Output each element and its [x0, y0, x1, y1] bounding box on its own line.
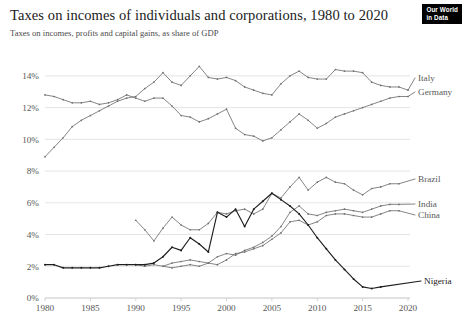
- series-data-point: [162, 97, 164, 99]
- x-axis-tick-label: 2010: [308, 303, 327, 313]
- series-data-point: [298, 205, 300, 207]
- y-axis-tick-label: 0%: [27, 293, 40, 303]
- x-axis-tick-label: 2020: [399, 303, 418, 313]
- series-data-point: [253, 213, 255, 215]
- y-axis-tick-label: 4%: [27, 230, 40, 240]
- series-data-point: [62, 267, 64, 269]
- series-data-point: [316, 237, 318, 239]
- series-data-point: [316, 215, 318, 217]
- series-data-point: [262, 208, 264, 210]
- series-data-point: [271, 235, 273, 237]
- series-labels: ItalyGermanyBrazilIndiaChinaNigeria: [381, 73, 453, 287]
- series-data-point: [90, 100, 92, 102]
- series-label-india[interactable]: India: [418, 199, 437, 209]
- series-data-point: [53, 146, 55, 148]
- series-data-point: [344, 183, 346, 185]
- series-data-point: [316, 78, 318, 80]
- series-data-point: [362, 286, 364, 288]
- series-data-point: [344, 213, 346, 215]
- series-data-point: [280, 129, 282, 131]
- x-axis-tick-label: 1985: [81, 303, 100, 313]
- series-data-point: [126, 94, 128, 96]
- series-label-germany[interactable]: Germany: [418, 87, 453, 97]
- series-data-point: [171, 262, 173, 264]
- series-data-point: [198, 66, 200, 68]
- series-data-point: [244, 134, 246, 136]
- series-data-point: [344, 113, 346, 115]
- y-axis-tick-label: 8%: [27, 166, 40, 176]
- series-data-point: [362, 194, 364, 196]
- series-data-point: [335, 210, 337, 212]
- series-data-point: [398, 96, 400, 98]
- series-label-connector: [399, 179, 415, 184]
- series-data-point: [298, 177, 300, 179]
- series-data-point: [289, 205, 291, 207]
- series-data-point: [62, 137, 64, 139]
- series-data-point: [44, 94, 46, 96]
- series-data-point: [389, 210, 391, 212]
- series-data-point: [298, 219, 300, 221]
- series-data-point: [80, 102, 82, 104]
- series-data-point: [80, 267, 82, 269]
- series-data-point: [353, 110, 355, 112]
- series-data-point: [316, 181, 318, 183]
- series-data-point: [117, 99, 119, 101]
- series-data-point: [198, 265, 200, 267]
- series-data-point: [217, 256, 219, 258]
- series-data-point: [307, 77, 309, 79]
- series-data-point: [380, 85, 382, 87]
- series-data-point: [380, 100, 382, 102]
- series-data-point: [98, 267, 100, 269]
- series-data-point: [162, 256, 164, 258]
- series-label-connector: [381, 281, 421, 287]
- series-data-point: [362, 216, 364, 218]
- series-data-point: [298, 113, 300, 115]
- series-data-point: [235, 254, 237, 256]
- series-label-italy[interactable]: Italy: [418, 73, 435, 83]
- series-line-germany[interactable]: [45, 95, 408, 141]
- series-line-brazil[interactable]: [136, 177, 399, 240]
- series-label-nigeria[interactable]: Nigeria: [424, 276, 452, 286]
- series-data-point: [371, 81, 373, 83]
- series-data-point: [307, 189, 309, 191]
- series-data-point: [226, 216, 228, 218]
- series-data-point: [253, 135, 255, 137]
- series-line-india[interactable]: [136, 204, 399, 266]
- series-data-point: [371, 216, 373, 218]
- series-data-point: [217, 78, 219, 80]
- series-label-china[interactable]: China: [418, 210, 440, 220]
- series-data-point: [180, 261, 182, 263]
- series-data-point: [226, 213, 228, 215]
- series-data-point: [307, 119, 309, 121]
- series-data-point: [325, 123, 327, 125]
- series-data-point: [208, 118, 210, 120]
- series-data-point: [253, 208, 255, 210]
- series-data-point: [189, 259, 191, 261]
- series-data-point: [180, 249, 182, 251]
- series-line-china[interactable]: [163, 211, 399, 268]
- series-data-point: [144, 100, 146, 102]
- series-data-point: [371, 287, 373, 289]
- series-lines: [44, 66, 409, 290]
- series-label-connector: [399, 211, 415, 215]
- series-data-point: [135, 219, 137, 221]
- series-label-brazil[interactable]: Brazil: [418, 174, 441, 184]
- series-data-point: [171, 246, 173, 248]
- series-data-point: [62, 99, 64, 101]
- x-axis-tick-labels: 198019851990199520002005201020152020: [36, 303, 418, 313]
- series-data-point: [244, 226, 246, 228]
- x-axis-tick-label: 2005: [263, 303, 282, 313]
- series-data-point: [80, 119, 82, 121]
- series-line-nigeria[interactable]: [45, 193, 381, 288]
- series-data-point: [307, 213, 309, 215]
- series-data-point: [362, 72, 364, 74]
- series-data-point: [189, 229, 191, 231]
- series-data-point: [380, 213, 382, 215]
- series-data-point: [271, 192, 273, 194]
- series-data-point: [226, 77, 228, 79]
- series-data-point: [280, 199, 282, 201]
- series-data-point: [144, 229, 146, 231]
- series-data-point: [189, 116, 191, 118]
- series-data-point: [162, 227, 164, 229]
- series-data-point: [280, 226, 282, 228]
